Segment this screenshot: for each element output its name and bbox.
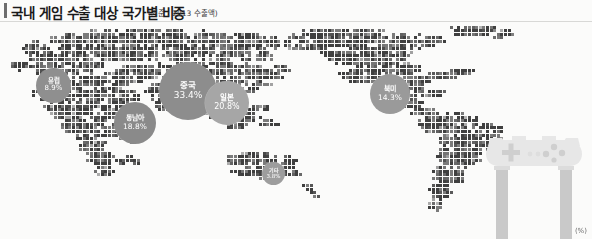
gamepad-icon: [482, 134, 586, 239]
title-note: (기준 : 2013 수출액): [148, 7, 218, 18]
bubble-other-value: 3.8%: [267, 173, 281, 179]
bubble-china-label: 중국: [180, 81, 196, 90]
bubble-southeast-asia-label: 동남아: [126, 115, 144, 123]
header: 국내 게임 수출 대상 국가별 비중 (기준 : 2013 수출액): [0, 0, 592, 22]
bubble-japan: 일본 20.8%: [205, 81, 249, 125]
infographic-page: 국내 게임 수출 대상 국가별 비중 (기준 : 2013 수출액) 중국 33…: [0, 0, 592, 239]
bubble-china-value: 33.4%: [174, 91, 203, 101]
bubble-north-america-value: 14.3%: [378, 94, 402, 102]
unit-label: (%): [575, 227, 587, 235]
bubble-europe: 유럽 8.9%: [36, 68, 71, 103]
bubble-southeast-asia-value: 18.8%: [123, 123, 147, 131]
bubble-europe-value: 8.9%: [45, 85, 63, 93]
bubble-other: 기타 3.8%: [262, 162, 285, 185]
bubble-japan-label: 일본: [220, 94, 234, 102]
bubble-north-america: 북미 14.3%: [370, 74, 410, 114]
world-map: 중국 33.4% 일본 20.8% 동남아 18.8% 북미 14.3% 유럽 …: [0, 22, 592, 239]
bubble-north-america-label: 북미: [384, 86, 396, 94]
bubble-japan-value: 20.8%: [214, 103, 239, 112]
title-accent-bar: [4, 3, 7, 18]
bubble-southeast-asia: 동남아 18.8%: [114, 102, 156, 144]
